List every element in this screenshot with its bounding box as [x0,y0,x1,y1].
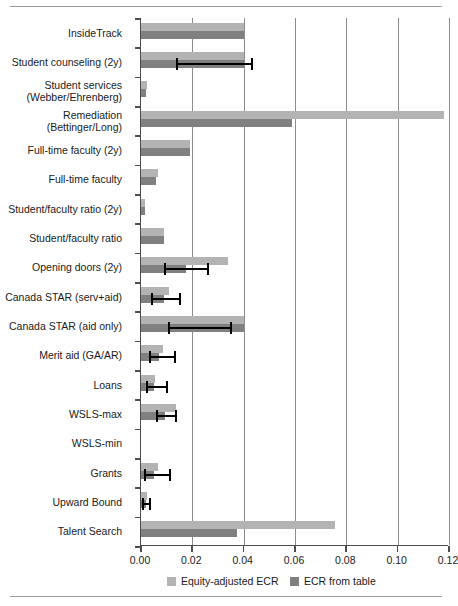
error-bar-cap [144,469,146,481]
category-tick [135,253,141,255]
error-bar-cap [168,322,170,334]
error-bar-cap [156,410,158,422]
error-bar-line [151,298,181,300]
value-tick-label: 0.02 [181,554,201,567]
category-label: Student/faculty ratio (2y) [8,203,122,215]
bar-equity-adjusted-ecr [141,111,444,119]
bar-equity-adjusted-ecr [141,228,164,236]
category-tick [135,106,141,108]
bar-row [141,341,448,370]
bar-row [141,194,448,223]
bottom-rule [10,596,442,597]
bar-row [141,399,448,428]
category-label: Canada STAR (aid only) [9,320,122,332]
category-label: Student services (Webber/Ehrenberg) [26,79,122,103]
error-bar-cap [179,293,181,305]
legend-label: Equity-adjusted ECR [181,575,278,588]
value-tick-label: 0.04 [232,554,252,567]
bar-rows [141,18,448,545]
category-label: Student/faculty ratio [29,232,122,244]
bar-ecr-from-table [141,119,292,127]
category-tick [135,165,141,167]
error-bar-cap [146,381,148,393]
error-bar-line [146,386,168,388]
bar-ecr-from-table [141,148,190,156]
bar-ecr-from-table [141,236,164,244]
plot-area [140,18,448,546]
category-tick [135,311,141,313]
bar-row [141,370,448,399]
value-tick [345,546,347,552]
legend-item: ECR from table [290,575,376,588]
bar-equity-adjusted-ecr [141,521,335,529]
bar-row [141,106,448,135]
category-tick [135,370,141,372]
value-axis-labels: 0.000.020.040.060.080.100.12 [0,554,451,568]
bar-equity-adjusted-ecr [141,23,244,31]
category-tick [135,18,141,20]
value-tick [191,546,193,552]
category-tick [135,487,141,489]
error-bar-cap [164,263,166,275]
bar-row [141,487,448,516]
bar-equity-adjusted-ecr [141,287,169,295]
error-bar-line [144,474,171,476]
bar-row [141,253,448,282]
value-tick-label: 0.10 [386,554,406,567]
error-bar-line [164,268,209,270]
bar-ecr-from-table [141,529,237,537]
legend-swatch-icon [290,577,299,586]
category-tick [135,223,141,225]
category-label: Student counseling (2y) [12,56,122,68]
category-label: WSLS-max [69,408,122,420]
value-tick [448,546,450,552]
category-label: Opening doors (2y) [32,261,122,273]
error-bar-cap [142,498,144,510]
bar-equity-adjusted-ecr [141,169,158,177]
bar-row [141,517,448,546]
category-label: Full-time faculty [48,173,122,185]
category-label: WSLS-min [72,437,122,449]
error-bar-cap [174,351,176,363]
top-rule [10,6,442,7]
bar-row [141,18,448,47]
bar-ecr-from-table [141,31,244,39]
error-bar-cap [251,58,253,70]
category-tick [135,47,141,49]
bar-equity-adjusted-ecr [141,81,147,89]
bar-row [141,77,448,106]
bar-equity-adjusted-ecr [141,316,244,324]
error-bar-cap [166,381,168,393]
bar-equity-adjusted-ecr [141,52,244,60]
legend-label: ECR from table [304,575,376,588]
category-tick [135,458,141,460]
legend: Equity-adjusted ECRECR from table [0,575,451,591]
category-tick [135,194,141,196]
category-label: Canada STAR (serv+aid) [5,291,122,303]
category-tick [135,399,141,401]
bar-equity-adjusted-ecr [141,257,228,265]
category-label: Talent Search [58,525,122,537]
value-tick-label: 0.08 [335,554,355,567]
category-tick [135,282,141,284]
bar-row [141,135,448,164]
bar-equity-adjusted-ecr [141,345,163,353]
category-tick [135,135,141,137]
bar-row [141,47,448,76]
bar-row [141,311,448,340]
category-label: Merit aid (GA/AR) [39,349,122,361]
error-bar-line [149,356,176,358]
category-tick [135,517,141,519]
category-label: Remediation (Bettinger/Long) [47,109,122,133]
value-tick [140,546,142,552]
legend-item: Equity-adjusted ECR [167,575,278,588]
error-bar-cap [151,293,153,305]
value-tick-label: 0.06 [284,554,304,567]
category-axis-labels: InsideTrackStudent counseling (2y)Studen… [0,18,134,546]
bar-row [141,429,448,458]
legend-swatch-icon [167,577,176,586]
value-tick-label: 0.00 [130,554,150,567]
value-axis-ticks [140,546,448,552]
value-tick-label: 0.12 [438,554,458,567]
